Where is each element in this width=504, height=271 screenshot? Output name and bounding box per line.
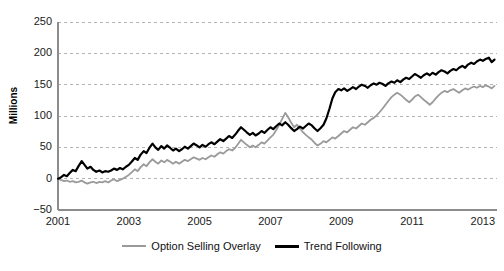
y-axis-tick-label: 100 xyxy=(18,109,52,121)
legend-line-swatch-gray-icon xyxy=(122,245,146,247)
gridlines xyxy=(58,22,497,210)
x-axis-tick-label: 2013 xyxy=(463,215,503,227)
series-line xyxy=(58,58,495,179)
legend-label: Trend Following xyxy=(304,240,382,252)
y-axis-tick-label: 50 xyxy=(18,140,52,152)
x-axis-tick-label: 2001 xyxy=(38,215,78,227)
plot-area xyxy=(0,0,504,271)
legend-item-option-selling-overlay: Option Selling Overlay xyxy=(122,240,260,252)
x-axis-tick-label: 2007 xyxy=(250,215,290,227)
y-axis-tick-label: 150 xyxy=(18,78,52,90)
y-axis-tick-label: 200 xyxy=(18,46,52,58)
y-axis-tick-label: 0 xyxy=(18,172,52,184)
x-axis-tick-label: 2011 xyxy=(392,215,432,227)
chart-container: Millions 250200150100500−50 200120032005… xyxy=(0,0,504,271)
y-axis-tick-label: 250 xyxy=(18,15,52,27)
series-lines xyxy=(58,58,495,184)
legend-item-trend-following: Trend Following xyxy=(275,240,382,252)
legend-label: Option Selling Overlay xyxy=(151,240,260,252)
legend-line-swatch-black-icon xyxy=(275,245,299,248)
x-axis-tick-label: 2003 xyxy=(109,215,149,227)
x-axis-tick-label: 2005 xyxy=(180,215,220,227)
y-axis-tick-label: −50 xyxy=(18,203,52,215)
x-axis-tick-label: 2009 xyxy=(321,215,361,227)
chart-legend: Option Selling Overlay Trend Following xyxy=(0,240,504,252)
